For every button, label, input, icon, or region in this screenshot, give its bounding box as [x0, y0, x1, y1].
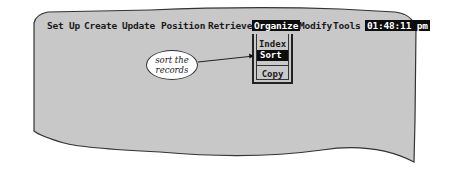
sort-callout-bubble: sort the records [146, 50, 198, 80]
callout-line-1: sort the [147, 55, 197, 65]
screen-frame: Set Up Create Update Position Retrieve O… [0, 0, 458, 180]
callout-line-2: records [147, 65, 197, 75]
callout-leader-line [0, 0, 458, 180]
